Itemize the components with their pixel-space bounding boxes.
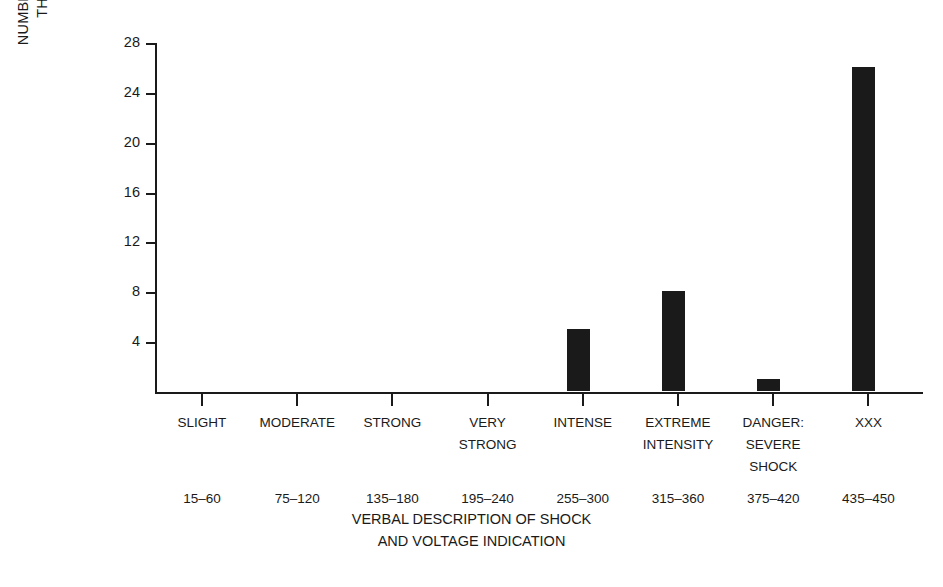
- x-axis-tick: [296, 394, 298, 406]
- x-axis-tick: [201, 394, 203, 406]
- y-axis-tick: 12: [146, 242, 155, 244]
- x-axis-title-line-2: AND VOLTAGE INDICATION: [0, 530, 943, 552]
- y-axis-tick-label: 12: [124, 233, 140, 249]
- y-axis-tick-label: 4: [132, 333, 140, 349]
- y-axis-tick: 16: [146, 193, 155, 195]
- y-axis-line: [155, 43, 157, 394]
- y-axis-tick: 8: [146, 292, 155, 294]
- y-axis-tick-label: 8: [132, 283, 140, 299]
- x-axis-tick: [772, 394, 774, 406]
- category-label: XXX435–450: [798, 412, 938, 434]
- y-axis-tick: 28: [146, 43, 155, 45]
- category-label-line: STRONG: [418, 434, 558, 456]
- y-axis-title-line-2: THIS WAS MAXIMUM SHOCK: [33, 0, 52, 18]
- y-axis-title: NUMBER OF SUBJECTS FOR WHOM THIS WAS MAX…: [14, 0, 70, 96]
- x-axis-tick: [867, 394, 869, 406]
- x-axis-tick: [677, 394, 679, 406]
- bar: [567, 329, 590, 391]
- y-axis-tick-label: 16: [124, 184, 140, 200]
- x-axis-title-line-1: VERBAL DESCRIPTION OF SHOCK: [0, 508, 943, 530]
- x-axis-tick: [487, 394, 489, 406]
- category-label-line: SHOCK: [703, 456, 843, 478]
- bar: [757, 379, 780, 391]
- chart-figure: NUMBER OF SUBJECTS FOR WHOM THIS WAS MAX…: [0, 0, 943, 587]
- bar: [662, 291, 685, 391]
- y-axis-tick-label: 28: [124, 34, 140, 50]
- y-axis-tick: 24: [146, 93, 155, 95]
- bar: [852, 67, 875, 391]
- category-label-line: SEVERE: [703, 434, 843, 456]
- y-axis-tick: 4: [146, 342, 155, 344]
- y-axis-tick: 20: [146, 143, 155, 145]
- y-axis-tick-label: 20: [124, 134, 140, 150]
- x-axis-line: [155, 392, 923, 394]
- y-axis-tick-label: 24: [124, 84, 140, 100]
- x-axis-title: VERBAL DESCRIPTION OF SHOCK AND VOLTAGE …: [0, 508, 943, 553]
- x-axis-tick: [582, 394, 584, 406]
- y-axis-title-line-1: NUMBER OF SUBJECTS FOR WHOM: [14, 0, 33, 45]
- category-label-line: XXX: [798, 412, 938, 434]
- plot-area: 481216202428: [155, 43, 921, 393]
- x-axis-tick: [391, 394, 393, 406]
- voltage-range-label: 435–450: [798, 488, 938, 510]
